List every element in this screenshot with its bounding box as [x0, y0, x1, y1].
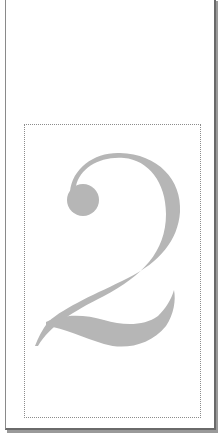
numeral-two-glyph: 2 [0, 0, 221, 441]
